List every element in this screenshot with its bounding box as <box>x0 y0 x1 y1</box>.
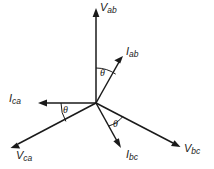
vector-v-ca-line <box>18 103 96 144</box>
vector-label-v-ca: Vca <box>16 150 32 161</box>
vector-i-ab <box>96 56 123 103</box>
vector-v-ab <box>93 8 100 103</box>
vector-label-i-ab: Iab <box>126 46 139 57</box>
vector-label-i-ca: Ica <box>9 93 21 104</box>
vector-label-i-bc: Ibc <box>126 149 138 160</box>
vector-label-v-bc-sub: bc <box>191 146 200 156</box>
vector-i-ab-arrowhead <box>114 56 123 64</box>
vector-v-ca <box>11 103 97 149</box>
vector-i-bc-arrowhead <box>113 138 121 148</box>
phasor-diagram: Vab Iab Ica Vca Ibc Vbc θ θ θ <box>0 0 214 169</box>
vector-v-bc-arrowhead <box>171 140 181 147</box>
angle-label-theta-vab-iab: θ <box>100 68 105 78</box>
vector-label-v-ab-sub: ab <box>107 5 116 15</box>
vector-label-i-bc-sub: bc <box>129 152 138 162</box>
vector-label-v-ab: Vab <box>100 2 117 13</box>
vector-i-ca-arrowhead <box>38 100 47 107</box>
vector-label-i-ab-sub: ab <box>129 49 138 59</box>
vector-label-i-ca-sub: ca <box>12 96 21 106</box>
vector-label-v-bc: Vbc <box>184 143 200 154</box>
angle-label-theta-ibc-vbc: θ <box>113 119 118 129</box>
vector-label-v-ca-sub: ca <box>23 153 32 163</box>
angle-label-theta-ica-vca: θ <box>63 105 68 115</box>
phasor-diagram-canvas <box>0 0 214 169</box>
vector-v-ab-arrowhead <box>93 8 100 17</box>
